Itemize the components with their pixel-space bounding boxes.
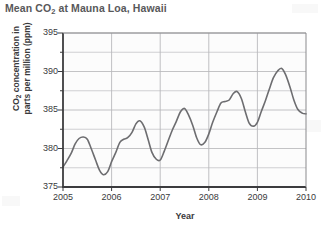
plot-area bbox=[0, 0, 321, 227]
chart-figure: Mean CO2 at Mauna Loa, Hawaii CO2 concen… bbox=[0, 0, 321, 227]
